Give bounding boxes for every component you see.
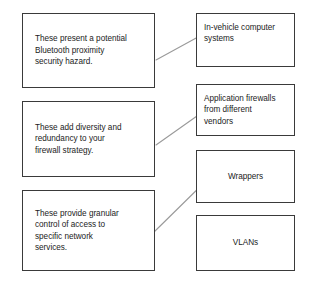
term-box-wrappers[interactable]: Wrappers <box>196 150 295 203</box>
connector-bluetooth-to-in-vehicle <box>156 37 198 60</box>
term-box-text: Wrappers <box>222 171 269 182</box>
description-box-text: These present a potential Bluetooth prox… <box>23 33 133 67</box>
description-box-text: These add diversity and redundancy to yo… <box>23 122 127 156</box>
term-box-text: VLANs <box>227 237 264 248</box>
description-box-bluetooth-hazard[interactable]: These present a potential Bluetooth prox… <box>22 13 155 88</box>
description-box-granular-control[interactable]: These provide granular control of access… <box>22 190 155 271</box>
term-box-text: Application firewalls from different ven… <box>197 85 279 127</box>
matching-diagram: These present a potential Bluetooth prox… <box>0 0 310 282</box>
term-box-in-vehicle-computer-systems[interactable]: In-vehicle computer systems <box>196 13 295 67</box>
term-box-text: In-vehicle computer systems <box>197 14 279 45</box>
description-box-text: These provide granular control of access… <box>23 208 125 254</box>
description-box-diversity-redundancy[interactable]: These add diversity and redundancy to yo… <box>22 101 155 177</box>
connector-diversity-to-application-firewalls <box>156 116 197 145</box>
term-box-application-firewalls[interactable]: Application firewalls from different ven… <box>196 84 295 136</box>
term-box-vlans[interactable]: VLANs <box>196 215 295 271</box>
